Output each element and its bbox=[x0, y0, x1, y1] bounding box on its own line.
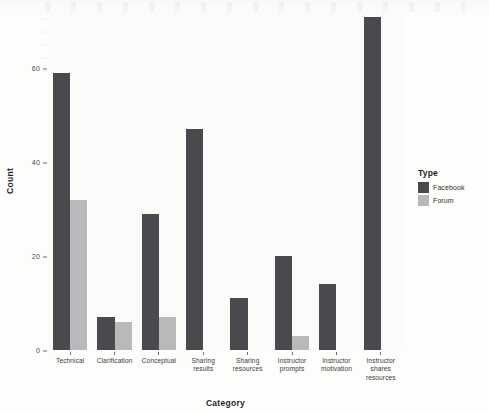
plot-panel bbox=[48, 12, 403, 350]
y-axis-tick-mark bbox=[43, 350, 47, 351]
y-axis-tick-label: 60 bbox=[32, 65, 48, 72]
legend-item-forum[interactable]: Forum bbox=[418, 195, 488, 206]
legend: Type FacebookForum bbox=[418, 168, 488, 208]
legend-swatch-facebook bbox=[418, 182, 429, 193]
x-axis-tick-mark bbox=[203, 352, 204, 355]
x-axis-tick-mark bbox=[70, 352, 71, 355]
y-axis-tick-mark bbox=[43, 162, 47, 163]
scan-artifact-overlay-top bbox=[45, 2, 465, 12]
x-axis-tick-mark bbox=[114, 352, 115, 355]
y-axis-tick-label: 40 bbox=[32, 159, 48, 166]
legend-swatch-forum bbox=[418, 195, 429, 206]
legend-item-facebook[interactable]: Facebook bbox=[418, 182, 488, 193]
x-axis-tick-label-line: shares bbox=[351, 365, 411, 373]
bar-facebook-4 bbox=[230, 298, 247, 350]
x-axis-tick-mark bbox=[247, 352, 248, 355]
bar-facebook-3 bbox=[186, 129, 203, 350]
bar-facebook-2 bbox=[142, 214, 159, 350]
x-axis-tick-label-line: resources bbox=[351, 374, 411, 382]
chart-page: 0204060 Count TechnicalClarificationConc… bbox=[0, 0, 489, 413]
bar-forum-0 bbox=[70, 200, 87, 350]
bars-layer bbox=[48, 12, 403, 350]
bar-forum-2 bbox=[159, 317, 176, 350]
bar-forum-1 bbox=[115, 322, 132, 350]
x-axis-title: Category bbox=[48, 398, 403, 408]
legend-label: Forum bbox=[433, 197, 454, 204]
y-axis-tick-label: 20 bbox=[32, 253, 48, 260]
bar-facebook-5 bbox=[275, 256, 292, 350]
x-axis-tick-label: Instructorsharesresources bbox=[351, 352, 411, 382]
x-axis: TechnicalClarificationConceptualSharingr… bbox=[48, 352, 403, 398]
legend-entries: FacebookForum bbox=[418, 182, 488, 206]
x-axis-tick-mark bbox=[158, 352, 159, 355]
y-axis-title: Count bbox=[5, 168, 15, 194]
x-axis-tick-label-line: Instructor bbox=[351, 357, 411, 365]
x-axis-tick-mark bbox=[292, 352, 293, 355]
legend-title: Type bbox=[418, 168, 488, 178]
bar-facebook-1 bbox=[97, 317, 114, 350]
x-axis-tick-mark bbox=[380, 352, 381, 355]
bar-forum-5 bbox=[292, 336, 309, 350]
x-axis-tick-mark bbox=[336, 352, 337, 355]
y-axis-tick-mark bbox=[43, 256, 47, 257]
bar-facebook-0 bbox=[53, 73, 70, 350]
bar-facebook-7 bbox=[364, 17, 381, 350]
y-axis-tick-mark bbox=[43, 68, 47, 69]
bar-facebook-6 bbox=[319, 284, 336, 350]
legend-label: Facebook bbox=[433, 184, 465, 191]
